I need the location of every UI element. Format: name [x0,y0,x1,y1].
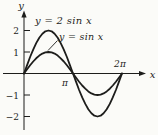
y-tick-label-neg2: −2 [6,112,19,122]
y-tick-label-neg1: −1 [6,91,19,101]
x-tick-label-pi: π [61,78,69,88]
y-axis-label: y [17,0,24,11]
x-axis-arrowhead-icon [139,71,146,76]
y-tick-label-1: 1 [13,48,19,58]
function-plot-figure: y x y = 2 sin x y = sin x 2 1 −1 −2 π 2π [0,0,158,135]
curve-sinx-label: y = sin x [58,31,104,42]
plot-canvas: y x y = 2 sin x y = sin x 2 1 −1 −2 π 2π [0,0,158,135]
x-axis-label: x [150,69,156,80]
x-tick-label-2pi: 2π [113,59,127,69]
y-tick-label-2: 2 [13,26,19,36]
curve-2sinx-label: y = 2 sin x [34,15,92,26]
sinx-label-leader-line [48,41,58,51]
y-axis-arrowhead-icon [21,11,26,18]
